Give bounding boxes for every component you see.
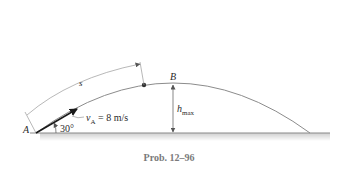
label-hmax: hmax bbox=[177, 104, 194, 117]
figure-caption: Prob. 12–96 bbox=[0, 152, 338, 163]
velocity-value: = 8 m/s bbox=[98, 112, 128, 123]
projectile-diagram bbox=[0, 0, 338, 176]
s-extension-end bbox=[140, 62, 144, 85]
velocity-leader bbox=[72, 116, 84, 118]
hmax-subscript: max bbox=[182, 109, 194, 117]
label-point-a: A bbox=[23, 125, 29, 135]
label-velocity: vA = 8 m/s bbox=[86, 113, 128, 126]
ground-shadow bbox=[40, 133, 330, 141]
label-arc-length: s bbox=[79, 79, 83, 88]
label-point-b: B bbox=[170, 72, 176, 82]
angle-arc bbox=[54, 123, 56, 133]
velocity-subscript: A bbox=[90, 118, 95, 126]
label-angle: 30° bbox=[60, 124, 74, 134]
